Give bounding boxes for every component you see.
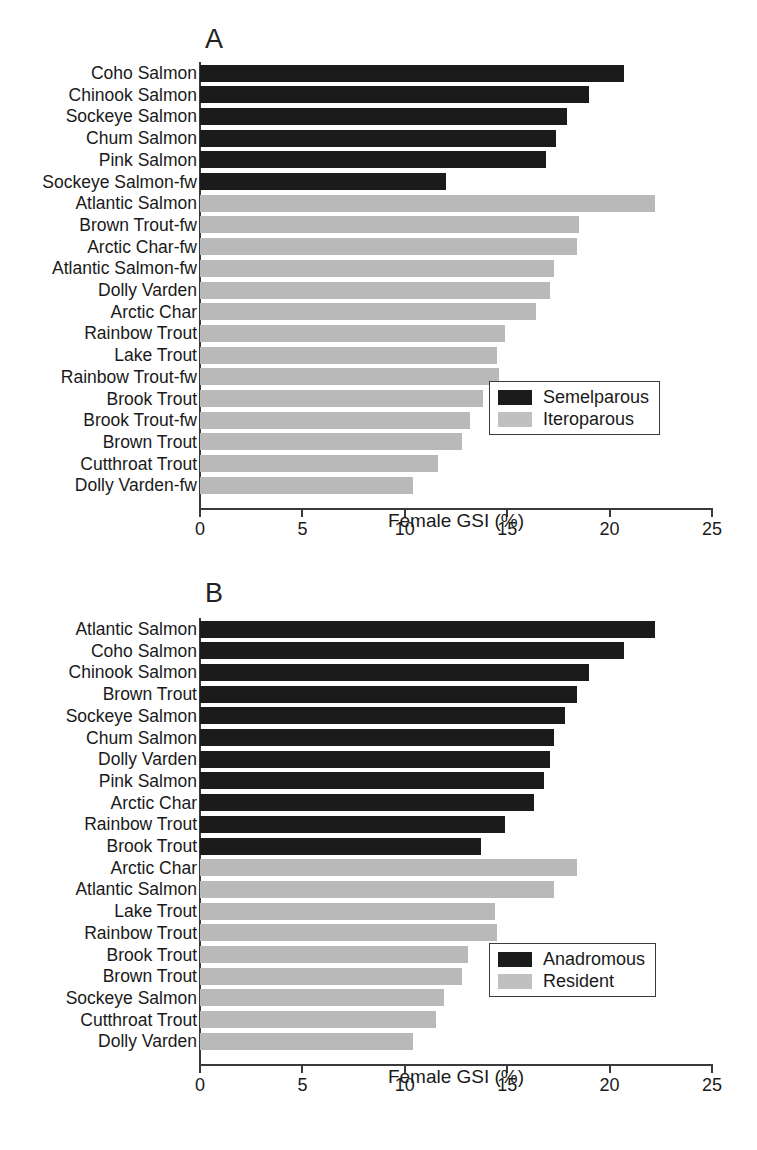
- legend-item: Iteroparous: [498, 410, 649, 428]
- category-label: Chum Salmon: [0, 728, 197, 748]
- bar: [200, 455, 438, 472]
- legend-swatch-gray: [498, 412, 532, 427]
- bar-row: Brown Trout: [0, 432, 757, 454]
- category-label: Arctic Char: [0, 793, 197, 813]
- legend-label: Anadromous: [543, 950, 645, 968]
- bar-row: Brook Trout: [0, 836, 757, 858]
- category-label: Atlantic Salmon: [0, 879, 197, 899]
- bar: [200, 130, 556, 147]
- bar: [200, 390, 483, 407]
- bar: [200, 173, 446, 190]
- panel-b-x-axis-label: Female GSI (%): [200, 1066, 712, 1088]
- bar-row: Chum Salmon: [0, 128, 757, 150]
- bar: [200, 477, 413, 494]
- bar: [200, 1033, 413, 1050]
- bar-row: Cutthroat Trout: [0, 1010, 757, 1032]
- bar-row: Dolly Varden: [0, 749, 757, 771]
- bar-row: Chum Salmon: [0, 728, 757, 750]
- bar: [200, 989, 444, 1006]
- legend-label: Resident: [543, 972, 614, 990]
- category-label: Atlantic Salmon: [0, 619, 197, 639]
- category-label: Atlantic Salmon-fw: [0, 258, 197, 278]
- bar-row: Chinook Salmon: [0, 662, 757, 684]
- bar: [200, 282, 550, 299]
- bar: [200, 686, 577, 703]
- bar-row: Arctic Char: [0, 302, 757, 324]
- category-label: Sockeye Salmon-fw: [0, 172, 197, 192]
- bar-row: Chinook Salmon: [0, 85, 757, 107]
- category-label: Sockeye Salmon: [0, 706, 197, 726]
- bar-row: Atlantic Salmon-fw: [0, 258, 757, 280]
- bar: [200, 621, 655, 638]
- bar-row: Dolly Varden: [0, 1031, 757, 1053]
- category-label: Brook Trout: [0, 836, 197, 856]
- category-label: Brook Trout-fw: [0, 410, 197, 430]
- bar-row: Arctic Char: [0, 858, 757, 880]
- legend-swatch-black: [498, 952, 532, 967]
- category-label: Pink Salmon: [0, 771, 197, 791]
- category-label: Cutthroat Trout: [0, 1010, 197, 1030]
- bar-row: Lake Trout: [0, 901, 757, 923]
- bar: [200, 881, 554, 898]
- category-label: Rainbow Trout-fw: [0, 367, 197, 387]
- category-label: Brown Trout: [0, 966, 197, 986]
- bar: [200, 347, 497, 364]
- bar-row: Dolly Varden: [0, 280, 757, 302]
- bar: [200, 86, 589, 103]
- bar: [200, 903, 495, 920]
- bar-row: Coho Salmon: [0, 63, 757, 85]
- bar: [200, 946, 468, 963]
- category-label: Arctic Char-fw: [0, 237, 197, 257]
- category-label: Dolly Varden: [0, 749, 197, 769]
- legend-label: Iteroparous: [543, 410, 634, 428]
- panel-a: A Coho SalmonChinook SalmonSockeye Salmo…: [0, 0, 757, 575]
- bar: [200, 412, 470, 429]
- category-label: Arctic Char: [0, 858, 197, 878]
- bar: [200, 642, 624, 659]
- category-label: Arctic Char: [0, 302, 197, 322]
- bar-row: Sockeye Salmon: [0, 106, 757, 128]
- category-label: Rainbow Trout: [0, 814, 197, 834]
- bar-row: Arctic Char-fw: [0, 237, 757, 259]
- bar-row: Dolly Varden-fw: [0, 475, 757, 497]
- category-label: Lake Trout: [0, 901, 197, 921]
- bar: [200, 772, 544, 789]
- category-label: Brook Trout: [0, 945, 197, 965]
- bar: [200, 65, 624, 82]
- panel-a-x-axis-label: Female GSI (%): [200, 510, 712, 532]
- bar: [200, 151, 546, 168]
- bar: [200, 794, 534, 811]
- category-label: Brook Trout: [0, 389, 197, 409]
- bar-row: Pink Salmon: [0, 771, 757, 793]
- category-label: Dolly Varden-fw: [0, 475, 197, 495]
- bar: [200, 195, 655, 212]
- category-label: Dolly Varden: [0, 280, 197, 300]
- bar-row: Rainbow Trout: [0, 323, 757, 345]
- bar-row: Sockeye Salmon-fw: [0, 172, 757, 194]
- panel-a-legend: SemelparousIteroparous: [489, 381, 660, 435]
- category-label: Coho Salmon: [0, 641, 197, 661]
- category-label: Sockeye Salmon: [0, 106, 197, 126]
- category-label: Brown Trout: [0, 432, 197, 452]
- panel-a-letter: A: [205, 24, 223, 55]
- category-label: Brown Trout: [0, 684, 197, 704]
- bar-row: Brown Trout: [0, 684, 757, 706]
- legend-item: Anadromous: [498, 950, 645, 968]
- bar: [200, 325, 505, 342]
- bar-row: Lake Trout: [0, 345, 757, 367]
- panel-b-legend: AnadromousResident: [489, 943, 656, 997]
- bar-row: Rainbow Trout: [0, 814, 757, 836]
- bar-row: Brown Trout-fw: [0, 215, 757, 237]
- bar-row: Atlantic Salmon: [0, 619, 757, 641]
- bar: [200, 238, 577, 255]
- bar: [200, 216, 579, 233]
- panel-b-letter: B: [205, 578, 223, 609]
- bar: [200, 707, 565, 724]
- category-label: Cutthroat Trout: [0, 454, 197, 474]
- category-label: Dolly Varden: [0, 1031, 197, 1051]
- bar-row: Atlantic Salmon: [0, 193, 757, 215]
- bar-row: Rainbow Trout: [0, 923, 757, 945]
- category-label: Lake Trout: [0, 345, 197, 365]
- category-label: Rainbow Trout: [0, 923, 197, 943]
- category-label: Sockeye Salmon: [0, 988, 197, 1008]
